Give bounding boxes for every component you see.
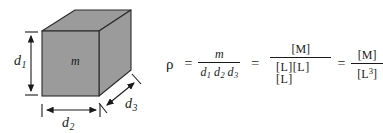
density-equation: ρ = m d1 d2 d3 = [M] [L][L][L] = [M] [L3… bbox=[166, 43, 383, 85]
dimension-label-d3: d3 bbox=[125, 97, 137, 113]
equals-sign-3: = bbox=[331, 56, 351, 72]
dimension-arrow-d1 bbox=[25, 32, 38, 95]
fraction-volume-denominator: d1 d2 d3 bbox=[198, 62, 240, 81]
dimension-label-d1: d1 bbox=[14, 54, 26, 70]
fraction-dimensions-compact: [M] [L3] bbox=[351, 49, 383, 80]
equals-sign-1: = bbox=[179, 56, 199, 72]
fraction-compact-numerator: [M] bbox=[352, 49, 383, 63]
mass-label: m bbox=[71, 55, 80, 67]
fraction-expanded-numerator: [M] bbox=[285, 43, 316, 57]
fraction-dimensions-expanded: [M] [L][L][L] bbox=[270, 43, 331, 85]
dimension-label-d2: d2 bbox=[62, 116, 74, 132]
fraction-expanded-denominator: [L][L][L] bbox=[270, 57, 331, 85]
fraction-volume-numerator: m bbox=[209, 48, 230, 62]
density-figure: d1 d2 d3 m ρ = m d1 d2 d3 = [M] [L][L][L… bbox=[0, 0, 383, 133]
fraction-volume: m d1 d2 d3 bbox=[198, 48, 240, 81]
equals-sign-2: = bbox=[240, 56, 270, 72]
fraction-compact-denominator: [L3] bbox=[351, 63, 383, 80]
rho-symbol: ρ bbox=[166, 56, 174, 73]
